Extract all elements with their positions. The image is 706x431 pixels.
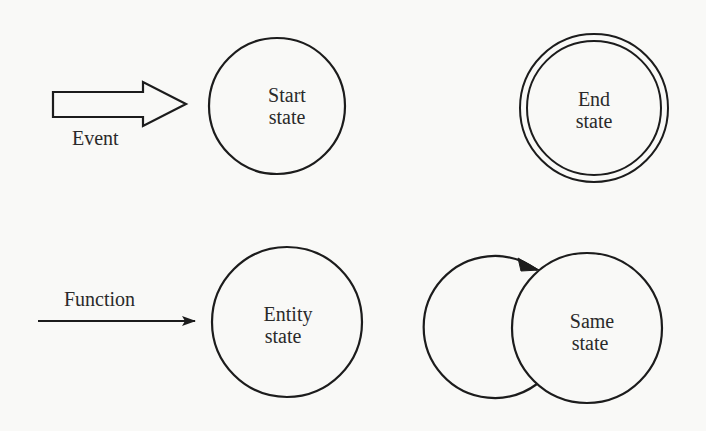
function-label: Function — [64, 288, 135, 310]
self-loop-arrowhead-icon — [518, 258, 539, 271]
same-state-self-loop — [424, 253, 662, 403]
same-state-label-line1: Same — [570, 310, 614, 332]
entity-state-label-line2: state — [265, 325, 302, 347]
start-state-label-line1: Start — [268, 84, 306, 106]
end-state-label-line2: state — [576, 110, 613, 132]
state-diagram-canvas — [0, 0, 706, 431]
end-state-label-line1: End — [578, 88, 610, 110]
start-state-label-line2: state — [269, 106, 306, 128]
event-label: Event — [72, 127, 119, 149]
same-state-label-line2: state — [572, 332, 609, 354]
entity-state-label-line1: Entity — [264, 303, 313, 325]
event-block-arrow-icon — [53, 82, 186, 126]
